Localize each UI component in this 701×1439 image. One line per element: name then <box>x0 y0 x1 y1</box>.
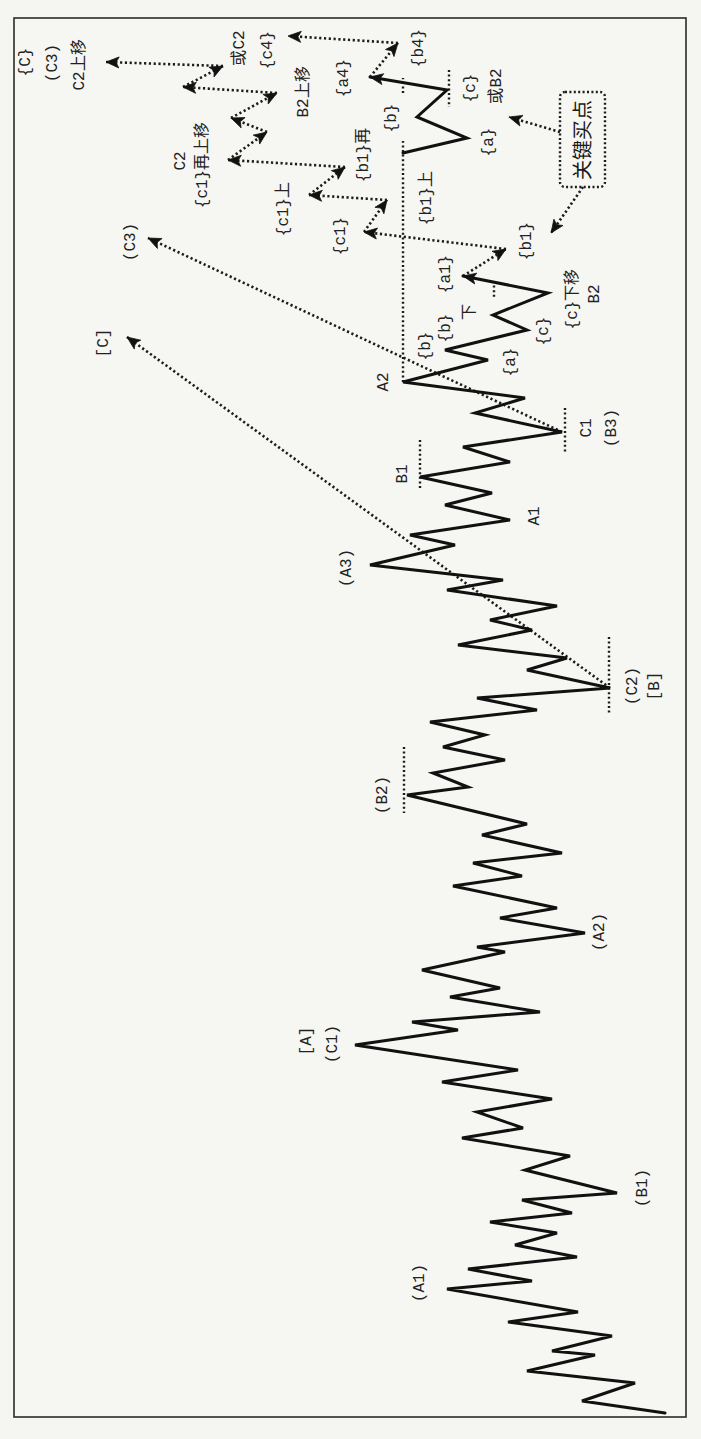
label-c2-up-move: C2上移 <box>70 39 89 90</box>
label-b1-point: B1 <box>394 464 412 483</box>
label-c1: {c1} <box>332 217 350 255</box>
diagram-frame <box>14 18 686 1417</box>
label-c-down-move: {c}下移 <box>563 269 582 330</box>
label-a-alt: {a} <box>480 128 498 157</box>
wave-diagram: 关键买点 {C} (C3) C2上移 或C2 {c4} B2上移 C2 {c1}… <box>0 0 701 1439</box>
label-b1: {b1} <box>518 222 536 260</box>
label-b3: (B3) <box>603 409 621 447</box>
label-c1-point: C1 <box>578 418 596 437</box>
label-a2-paren: (A2) <box>591 913 609 951</box>
label-c3: (C3) <box>122 223 140 261</box>
label-down: 下 <box>461 304 479 320</box>
label-c3-top: (C3) <box>44 44 62 82</box>
label-c: {c} <box>535 317 553 346</box>
label-b2-paren: (B2) <box>374 776 392 814</box>
label-c1-up: {c1}上 <box>274 182 293 236</box>
label-a: {a} <box>502 348 520 377</box>
label-b1-again: {b1}再 <box>355 128 373 182</box>
label-a-bracket: [A] <box>298 1027 316 1056</box>
label-b-top: {b} <box>383 104 401 133</box>
label-a4: {a4} <box>335 59 353 97</box>
label-c-alt: {c} <box>462 74 480 103</box>
label-or-c2: 或C2 <box>230 30 249 65</box>
label-a1-point: A1 <box>526 506 544 525</box>
label-c1-again-up: {c1}再上移 <box>193 122 212 208</box>
label-c-bracket: [C] <box>95 329 113 358</box>
label-c2: C2 <box>172 151 190 170</box>
label-c4: {c4} <box>259 31 277 69</box>
label-a3: (A3) <box>338 549 356 587</box>
label-c1-paren: (C1) <box>324 1025 342 1063</box>
label-b-second: {b} <box>437 314 455 343</box>
label-c-top: {C} <box>17 48 35 77</box>
label-a1-paren: (A1) <box>411 1264 429 1302</box>
callout-text: 关键买点 <box>571 100 595 180</box>
label-b2-up-move: B2上移 <box>294 66 313 117</box>
label-or-b2: 或B2 <box>487 68 506 103</box>
label-b: {b} <box>417 332 435 361</box>
label-b-bracket: [B] <box>646 672 664 701</box>
label-c2-paren: (C2) <box>624 667 642 705</box>
label-b1-paren: (B1) <box>634 1169 652 1207</box>
label-a1-brace: {a1} <box>437 255 455 293</box>
label-b4: {b4} <box>410 29 428 67</box>
label-b2: B2 <box>586 284 604 303</box>
label-b1-up: {b1}上 <box>417 171 436 225</box>
label-a2: A2 <box>375 372 393 391</box>
